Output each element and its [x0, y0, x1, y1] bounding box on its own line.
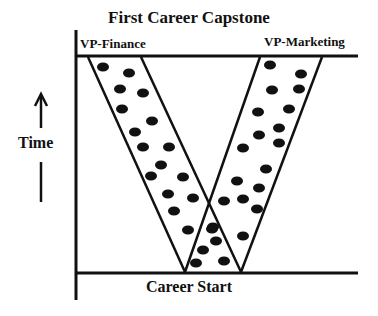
person-dot [273, 124, 285, 133]
person-dot [146, 117, 158, 126]
person-dot [137, 143, 149, 152]
person-dot [260, 165, 272, 174]
person-dot [283, 105, 295, 114]
person-dot [237, 195, 249, 204]
person-dot [231, 177, 243, 186]
person-dot [252, 108, 264, 117]
person-dot [177, 173, 189, 182]
person-dot [190, 259, 202, 268]
person-dot [295, 70, 307, 79]
person-dot [114, 85, 126, 94]
person-dot [210, 237, 222, 246]
people-dots [97, 61, 307, 268]
person-dot [237, 144, 249, 153]
person-dot [251, 205, 263, 214]
person-dot [145, 172, 157, 181]
person-dot [218, 257, 230, 266]
person-dot [218, 197, 230, 206]
person-dot [163, 143, 175, 152]
person-dot [182, 226, 194, 235]
person-dot [253, 131, 265, 140]
person-dot [237, 232, 249, 241]
person-dot [129, 128, 141, 137]
person-dot [273, 139, 285, 148]
person-dot [207, 223, 219, 232]
person-dot [116, 105, 128, 114]
person-dot [293, 85, 305, 94]
person-dot [162, 190, 174, 199]
time-arrow-icon [35, 94, 47, 202]
person-dot [253, 184, 265, 193]
person-dot [97, 63, 109, 72]
person-dot [197, 246, 209, 255]
person-dot [123, 69, 135, 78]
person-dot [137, 89, 149, 98]
person-dot [155, 161, 167, 170]
person-dot [264, 61, 276, 70]
person-dot [187, 194, 199, 203]
person-dot [266, 86, 278, 95]
career-path-diagram [0, 0, 378, 316]
person-dot [168, 207, 180, 216]
